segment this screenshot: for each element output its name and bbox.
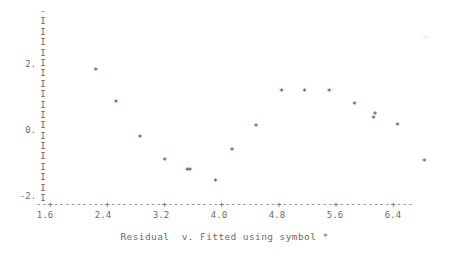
data-point-marker: * bbox=[325, 88, 334, 97]
plot-caption: Residual v. Fitted using symbol * bbox=[0, 230, 449, 243]
data-point-marker: * bbox=[393, 122, 402, 131]
data-point-marker: * bbox=[135, 134, 144, 143]
data-point-marker: * bbox=[91, 67, 100, 76]
scan-artifact bbox=[423, 35, 428, 39]
plot-canvas: -IIIIIIIIIIIIIIIIII 2.0.-2. --+---------… bbox=[0, 0, 449, 261]
data-point-marker: * bbox=[112, 99, 121, 108]
data-point-marker: * bbox=[350, 101, 359, 110]
data-point-marker: * bbox=[211, 178, 220, 187]
data-point-marker: * bbox=[251, 123, 260, 132]
data-point-marker: * bbox=[228, 147, 237, 156]
data-point-marker: * bbox=[277, 88, 286, 97]
data-point-marker: * bbox=[300, 88, 309, 97]
data-point-marker: * bbox=[186, 167, 195, 176]
data-point-marker: * bbox=[160, 157, 169, 166]
data-points-layer: ***************** bbox=[0, 0, 449, 261]
data-point-marker: * bbox=[370, 111, 379, 120]
data-point-marker: * bbox=[420, 158, 429, 167]
